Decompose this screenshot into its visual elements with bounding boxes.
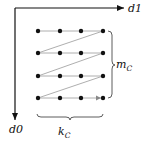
rows-brace	[108, 31, 115, 98]
d0-label: d0	[9, 123, 23, 136]
data-layout-diagram: d1 d0 mC kC	[0, 0, 147, 150]
axes	[15, 8, 124, 120]
mc-label: mC	[116, 58, 132, 73]
cols-brace	[37, 114, 103, 120]
d1-label: d1	[128, 2, 142, 15]
kc-label: kC	[58, 125, 71, 140]
traversal-path	[38, 31, 103, 98]
